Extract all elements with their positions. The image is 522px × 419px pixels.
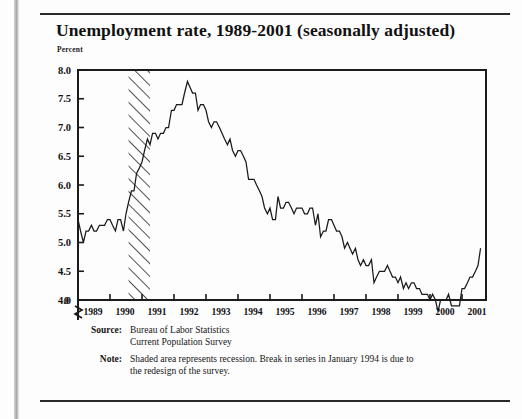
source-line-2: Current Population Survey bbox=[130, 337, 496, 349]
note-line-1: Shaded area represents recession. Break … bbox=[130, 354, 496, 366]
note-text: Shaded area represents recession. Break … bbox=[130, 354, 496, 377]
x-tick-label: 2001 bbox=[467, 306, 486, 317]
y-tick-label: 5.5 bbox=[58, 208, 71, 219]
y-tick-label: 6.5 bbox=[58, 151, 71, 162]
x-tick-label: 1992 bbox=[179, 306, 198, 317]
figure-page: Unemployment rate, 1989-2001 (seasonally… bbox=[0, 0, 522, 419]
y-tick-label-zero: 0 bbox=[64, 295, 69, 306]
source-line-1: Bureau of Labor Statistics bbox=[130, 325, 496, 337]
footnotes: Source: Bureau of Labor Statistics Curre… bbox=[76, 325, 496, 378]
y-tick-label: 8.0 bbox=[58, 65, 71, 76]
x-tick-label: 1989 bbox=[83, 306, 102, 317]
note-line-2: the redesign of the survey. bbox=[130, 366, 496, 378]
source-text: Bureau of Labor Statistics Current Popul… bbox=[130, 325, 496, 348]
x-tick-label: 1993 bbox=[211, 306, 230, 317]
x-tick-label: 1994 bbox=[243, 306, 262, 317]
y-tick-label: 6.0 bbox=[58, 180, 71, 191]
x-tick-label: 1998 bbox=[371, 306, 390, 317]
y-tick-label: 7.5 bbox=[58, 93, 71, 104]
source-row: Source: Bureau of Labor Statistics Curre… bbox=[76, 325, 496, 348]
x-tick-label: 1997 bbox=[339, 306, 358, 317]
y-tick-label: 5.0 bbox=[58, 237, 71, 248]
y-tick-label: 4.5 bbox=[58, 266, 71, 277]
x-tick-label: 1991 bbox=[147, 306, 166, 317]
x-tick-label: 1999 bbox=[403, 306, 422, 317]
y-tick-label: 7.0 bbox=[58, 122, 71, 133]
note-label: Note: bbox=[76, 354, 130, 366]
x-tick-label: 1995 bbox=[275, 306, 294, 317]
x-tick-label: 1990 bbox=[115, 306, 134, 317]
source-label: Source: bbox=[76, 325, 130, 337]
recession-shaded-band bbox=[129, 70, 150, 300]
x-tick-label: 1996 bbox=[307, 306, 326, 317]
note-row: Note: Shaded area represents recession. … bbox=[76, 354, 496, 377]
